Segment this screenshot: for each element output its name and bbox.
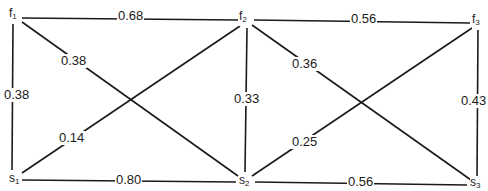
node-f2: f2: [239, 10, 247, 26]
edge-s1-f2: [22, 26, 240, 173]
weight-s2-f3: 0.25: [291, 135, 318, 149]
node-s3-subscript: 3: [476, 181, 480, 190]
node-s2: s2: [239, 174, 249, 190]
node-s3: s3: [470, 176, 480, 191]
node-f3: f3: [472, 13, 480, 29]
weight-f3-s3: 0.43: [460, 94, 487, 108]
node-s2-subscript: 2: [245, 179, 249, 188]
weight-s2-s3: 0.56: [347, 175, 374, 189]
weight-f2-s3: 0.36: [291, 57, 318, 71]
weight-f2-s2: 0.33: [233, 92, 260, 106]
weight-f1-s2: 0.38: [60, 54, 87, 68]
weight-s1-s2: 0.80: [115, 173, 142, 187]
weight-f2-f3: 0.56: [350, 12, 377, 26]
node-f2-subscript: 2: [242, 15, 246, 24]
weight-f1-f2: 0.68: [117, 9, 144, 23]
edge-f1-s2: [22, 22, 238, 176]
node-f1-subscript: 1: [12, 12, 16, 21]
node-s1: s1: [9, 172, 19, 188]
node-f1: f1: [9, 7, 17, 23]
node-f3-subscript: 3: [475, 18, 479, 27]
edge-s2-f3: [252, 28, 472, 176]
weight-f1-s1: 0.38: [3, 88, 30, 102]
weight-s1-f2: 0.14: [58, 131, 85, 145]
node-s1-subscript: 1: [15, 177, 19, 186]
